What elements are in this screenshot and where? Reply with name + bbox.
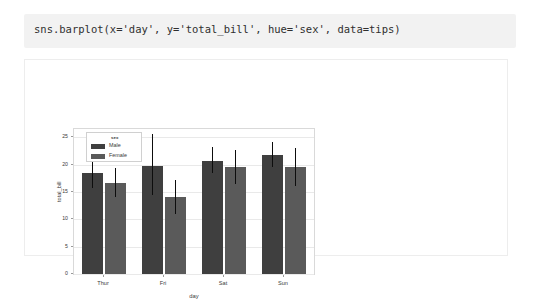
x-axis-label: day <box>189 293 198 299</box>
legend-label-female: Female <box>109 152 127 158</box>
y-tick-mark <box>71 191 73 192</box>
y-tick-mark <box>71 136 73 137</box>
legend-swatch-male-icon <box>91 144 105 149</box>
error-bar-sat-male <box>212 147 214 173</box>
chart-axes: sex Male Female <box>73 128 315 275</box>
x-tick-mark <box>283 275 284 277</box>
y-tick-label: 25 <box>48 133 68 139</box>
error-bar-sun-male <box>272 142 274 167</box>
y-tick-mark <box>71 164 73 165</box>
legend-title: sex <box>111 135 118 140</box>
x-tick-mark <box>103 275 104 277</box>
y-tick-label: 5 <box>48 243 68 249</box>
chart-legend: sex Male Female <box>86 132 142 162</box>
error-bar-fri-female <box>175 180 177 213</box>
x-tick-label: Sun <box>278 280 288 286</box>
error-bar-thur-female <box>115 168 117 197</box>
error-bar-thur-male <box>92 158 94 188</box>
gridline <box>74 274 314 275</box>
y-tick-mark <box>71 218 73 219</box>
y-axis-label: total_bill <box>56 181 62 202</box>
code-cell[interactable]: sns.barplot(x='day', y='total_bill', hue… <box>24 14 516 48</box>
y-tick-label: 20 <box>48 161 68 167</box>
x-tick-label: Fri <box>160 280 167 286</box>
y-tick-mark <box>71 246 73 247</box>
y-tick-label: 0 <box>48 270 68 276</box>
error-bar-sat-female <box>235 150 237 184</box>
bar-sat-male <box>202 161 223 274</box>
x-tick-label: Sat <box>219 280 227 286</box>
bar-sun-male <box>262 155 283 274</box>
error-bar-sun-female <box>295 148 297 186</box>
code-cell-source: sns.barplot(x='day', y='total_bill', hue… <box>34 23 401 35</box>
error-bar-fri-male <box>152 134 154 195</box>
y-tick-mark <box>71 273 73 274</box>
x-tick-mark <box>163 275 164 277</box>
x-tick-mark <box>223 275 224 277</box>
figure-output: sex Male Female 0510152025ThurFriSatSun … <box>24 59 508 256</box>
y-tick-label: 10 <box>48 215 68 221</box>
legend-label-male: Male <box>109 142 121 148</box>
x-tick-label: Thur <box>97 280 109 286</box>
legend-swatch-female-icon <box>91 154 105 159</box>
